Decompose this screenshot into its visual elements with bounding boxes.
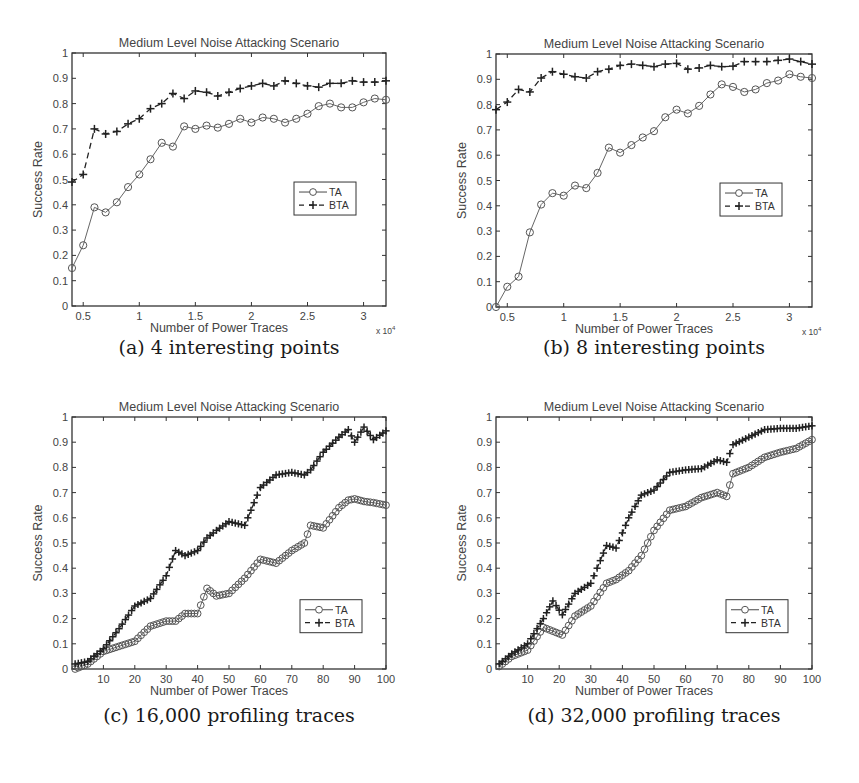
- svg-text:40: 40: [191, 673, 203, 685]
- svg-text:1: 1: [62, 411, 68, 423]
- svg-text:0.9: 0.9: [477, 436, 492, 448]
- chart-c-x-axis: 102030405060708090100: [97, 417, 395, 685]
- svg-text:0.3: 0.3: [477, 587, 492, 599]
- svg-text:0.7: 0.7: [477, 487, 492, 499]
- chart-d-ylabel: Success Rate: [455, 504, 469, 581]
- chart-b-series-bta: [492, 55, 816, 114]
- caption-a: (a) 4 interesting points: [72, 336, 386, 358]
- chart-a-y-axis: 00.10.20.30.40.50.60.70.80.91: [53, 47, 386, 312]
- svg-text:0.9: 0.9: [53, 436, 68, 448]
- svg-text:0.6: 0.6: [477, 512, 492, 524]
- svg-text:70: 70: [286, 673, 298, 685]
- svg-text:0.4: 0.4: [53, 562, 68, 574]
- svg-text:0.7: 0.7: [53, 123, 68, 135]
- svg-text:0: 0: [62, 300, 68, 312]
- chart-d-x-axis: 102030405060708090100: [521, 417, 821, 685]
- svg-text:30: 30: [160, 673, 172, 685]
- svg-text:0.4: 0.4: [477, 562, 492, 574]
- chart-a-legend: TABTA: [294, 182, 356, 215]
- svg-text:0: 0: [62, 663, 68, 675]
- chart-b-x-axis: 0.511.522.53: [500, 54, 793, 323]
- chart-d-xlabel: Number of Power Traces: [575, 684, 713, 698]
- caption-b: (b) 8 interesting points: [496, 336, 812, 358]
- svg-text:0.1: 0.1: [53, 275, 68, 287]
- svg-text:0.5: 0.5: [477, 175, 492, 187]
- legend-label-bta: BTA: [761, 617, 781, 629]
- svg-text:3: 3: [361, 310, 367, 322]
- svg-text:0.2: 0.2: [477, 250, 492, 262]
- chart-c-series-ta: [72, 496, 390, 673]
- svg-text:0: 0: [486, 301, 492, 313]
- chart-d-y-axis: 00.10.20.30.40.50.60.70.80.91: [477, 411, 812, 675]
- svg-text:60: 60: [254, 673, 266, 685]
- svg-text:0.5: 0.5: [477, 537, 492, 549]
- chart-b-axes: [496, 54, 812, 307]
- svg-text:1: 1: [486, 411, 492, 423]
- chart-b-legend: TABTA: [720, 183, 782, 216]
- chart-c-xlabel: Number of Power Traces: [150, 684, 288, 698]
- chart-b-ylabel: Success Rate: [455, 142, 469, 219]
- svg-text:0.6: 0.6: [53, 148, 68, 160]
- chart-c-legend: TABTA: [300, 600, 362, 633]
- svg-text:10: 10: [521, 673, 533, 685]
- svg-text:1: 1: [62, 47, 68, 59]
- svg-text:90: 90: [774, 673, 786, 685]
- svg-text:0.6: 0.6: [477, 149, 492, 161]
- chart-a-xlabel: Number of Power Traces: [150, 321, 288, 335]
- legend-label-ta: TA: [755, 187, 768, 199]
- svg-text:10: 10: [97, 673, 109, 685]
- caption-d: (d) 32,000 profiling traces: [496, 704, 812, 726]
- svg-text:0.3: 0.3: [53, 587, 68, 599]
- svg-text:0.2: 0.2: [53, 249, 68, 261]
- legend-label-ta: TA: [329, 186, 342, 198]
- svg-text:0.8: 0.8: [53, 98, 68, 110]
- chart-c-series-bta: [72, 423, 390, 667]
- svg-text:0.1: 0.1: [477, 276, 492, 288]
- chart-c-y-axis: 00.10.20.30.40.50.60.70.80.91: [53, 411, 386, 675]
- svg-text:0.4: 0.4: [53, 199, 68, 211]
- svg-text:0.9: 0.9: [53, 72, 68, 84]
- chart-c-title: Medium Level Noise Attacking Scenario: [119, 400, 339, 414]
- svg-text:0.1: 0.1: [477, 638, 492, 650]
- chart-b-y-axis: 00.10.20.30.40.50.60.70.80.91: [477, 48, 812, 313]
- chart-c-ylabel: Success Rate: [31, 504, 45, 581]
- svg-text:50: 50: [223, 673, 235, 685]
- svg-text:2.5: 2.5: [725, 311, 740, 323]
- svg-text:70: 70: [711, 673, 723, 685]
- svg-text:40: 40: [616, 673, 628, 685]
- chart-d-legend: TABTA: [726, 600, 788, 633]
- chart-b-series-ta: [492, 71, 815, 311]
- svg-text:80: 80: [743, 673, 755, 685]
- chart-d-title: Medium Level Noise Attacking Scenario: [544, 400, 764, 414]
- legend-label-bta: BTA: [335, 617, 355, 629]
- svg-text:0.5: 0.5: [500, 311, 515, 323]
- chart-panel-a: Medium Level Noise Attacking Scenario00.…: [0, 0, 430, 345]
- svg-text:0.2: 0.2: [477, 613, 492, 625]
- svg-text:2.5: 2.5: [300, 310, 315, 322]
- svg-text:20: 20: [553, 673, 565, 685]
- svg-text:0.2: 0.2: [53, 613, 68, 625]
- svg-text:3: 3: [786, 311, 792, 323]
- legend-label-bta: BTA: [755, 200, 775, 212]
- svg-text:2: 2: [674, 311, 680, 323]
- svg-text:0.3: 0.3: [53, 224, 68, 236]
- svg-text:30: 30: [585, 673, 597, 685]
- chart-b-title: Medium Level Noise Attacking Scenario: [544, 37, 764, 51]
- svg-text:1.5: 1.5: [612, 311, 627, 323]
- svg-text:0.6: 0.6: [53, 512, 68, 524]
- chart-c-axes: [72, 417, 386, 669]
- svg-text:80: 80: [317, 673, 329, 685]
- svg-text:60: 60: [679, 673, 691, 685]
- svg-text:0.1: 0.1: [53, 638, 68, 650]
- svg-text:0.7: 0.7: [477, 124, 492, 136]
- chart-a-title: Medium Level Noise Attacking Scenario: [119, 36, 339, 50]
- svg-text:0.7: 0.7: [53, 487, 68, 499]
- svg-text:50: 50: [648, 673, 660, 685]
- svg-text:0.8: 0.8: [477, 99, 492, 111]
- legend-label-ta: TA: [335, 604, 348, 616]
- chart-a-series-bta: [68, 77, 390, 186]
- svg-text:0.5: 0.5: [53, 174, 68, 186]
- svg-text:0.4: 0.4: [477, 200, 492, 212]
- svg-text:20: 20: [129, 673, 141, 685]
- chart-a-svg: Medium Level Noise Attacking Scenario00.…: [0, 0, 430, 345]
